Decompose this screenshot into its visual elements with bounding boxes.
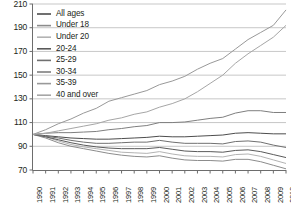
x-axis-tick-label: 1999	[150, 187, 158, 203]
x-axis-tick-label: 1992	[62, 187, 70, 203]
x-axis-tick-label: 2005	[226, 187, 234, 203]
legend-item-label: 25-29	[56, 56, 76, 64]
legend-item-label: Under 20	[56, 33, 89, 41]
line-chart: 2101901701501301109070 19901991199219931…	[0, 0, 291, 213]
x-axis-tick-label: 1995	[99, 187, 107, 203]
y-axis-tick-label: 130	[3, 94, 27, 103]
x-axis-tick-label: 1996	[112, 187, 120, 203]
x-axis-tick-label: 1997	[125, 187, 133, 203]
x-axis-tick-label: 2000	[163, 187, 171, 203]
x-axis-tick-label: 1991	[49, 187, 57, 203]
legend-item-label: All ages	[56, 10, 84, 18]
x-axis-ticks	[33, 170, 286, 174]
x-axis-tick-label: 2009	[277, 187, 285, 203]
x-axis-tick-label: 2006	[239, 187, 247, 203]
x-axis-tick-label: 2003	[201, 187, 209, 203]
y-axis-tick-label: 90	[3, 142, 27, 151]
x-axis-tick-label: 1998	[137, 187, 145, 203]
legend-item-label: 30-34	[56, 68, 76, 76]
x-axis-tick-label: 1990	[36, 187, 44, 203]
legend-item-label: 35-39	[56, 79, 76, 87]
chart-plot-area	[0, 0, 291, 213]
legend-item-label: Under 18	[56, 21, 89, 29]
y-axis-tick-label: 190	[3, 23, 27, 32]
x-axis-tick-label: 2008	[264, 187, 272, 203]
x-axis-tick-label: 2010	[289, 187, 291, 203]
series-line	[33, 133, 286, 140]
x-axis-tick-label: 2004	[213, 187, 221, 203]
y-axis-tick-label: 150	[3, 71, 27, 80]
x-axis-tick-label: 1993	[74, 187, 82, 203]
y-axis-tick-label: 110	[3, 118, 27, 127]
legend-item-label: 20-24	[56, 45, 76, 53]
x-axis-tick-label: 2007	[251, 187, 259, 203]
y-axis-tick-label: 210	[3, 0, 27, 8]
legend-item-label: 40 and over	[56, 91, 98, 99]
y-axis-tick-label: 70	[3, 166, 27, 175]
x-axis-tick-label: 2001	[175, 187, 183, 203]
x-axis-tick-label: 2002	[188, 187, 196, 203]
x-axis-tick-label: 1994	[87, 187, 95, 203]
y-axis-tick-label: 170	[3, 47, 27, 56]
